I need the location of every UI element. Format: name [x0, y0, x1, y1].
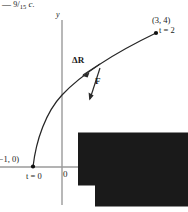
r-vector-symbol: R: [78, 56, 85, 65]
x-axis-label: x: [177, 171, 181, 179]
end-point-time-label: t = 2: [159, 26, 175, 35]
delta-r-vector-label: ΔR: [72, 56, 84, 65]
y-axis-label: y: [56, 11, 60, 19]
f-letter: F: [95, 76, 101, 86]
fragment-dash: —: [2, 0, 11, 9]
f-vector-symbol: F: [95, 77, 101, 86]
origin-label: 0: [63, 170, 68, 179]
x-tick-3-label: 3: [155, 171, 160, 180]
start-point-marker: [31, 164, 35, 168]
page-text-fragment: — 9/15 c.: [2, 0, 35, 10]
start-point-time-label: t = 0: [26, 172, 42, 181]
fragment-unit: c.: [29, 0, 35, 9]
vector-diagram-figure: — 9/15 c. y x 0 3 (−1, 0) t = 0 (3, 4) t…: [0, 0, 188, 212]
fraction-denominator: 15: [20, 3, 27, 10]
end-point-coordinate-label: (3, 4): [152, 16, 170, 25]
end-point-marker: [154, 31, 158, 35]
r-letter: R: [78, 55, 85, 65]
start-point-coordinate-label: (−1, 0): [0, 155, 19, 164]
trajectory-curve: [33, 33, 156, 167]
fragment-fraction: 9/15: [13, 0, 26, 10]
force-vector-label: F: [95, 77, 101, 86]
